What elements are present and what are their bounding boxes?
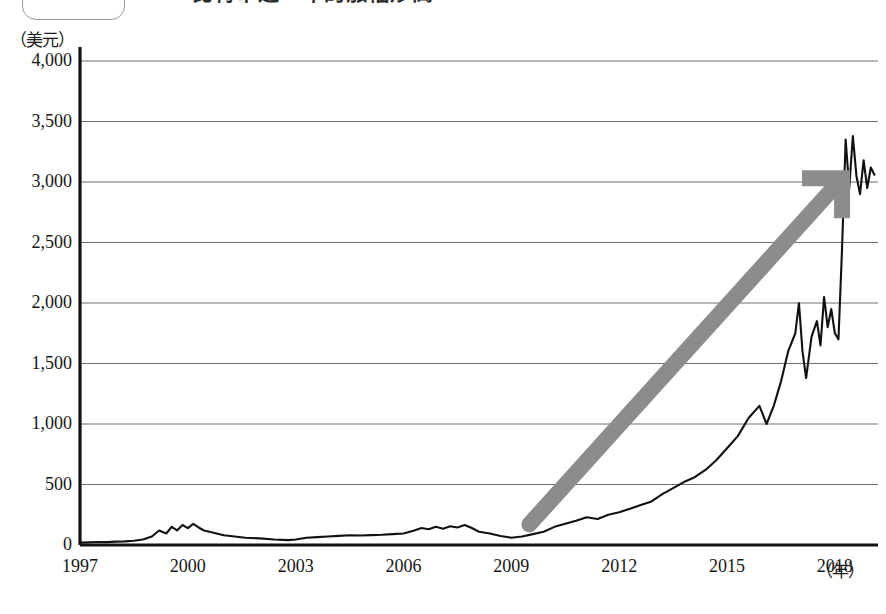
- y-tick-label: 3,000: [6, 172, 72, 190]
- x-tick-label-2000: 2000: [153, 556, 223, 577]
- y-tick-label: 1,500: [6, 354, 72, 372]
- y-tick-label: 0: [6, 535, 72, 553]
- data-series-group: [80, 136, 874, 543]
- chart-canvas: [0, 0, 886, 614]
- y-tick-label: 4,000: [6, 51, 72, 69]
- series-line-index: [80, 136, 874, 543]
- y-tick-label: 2,000: [6, 293, 72, 311]
- x-tick-label-2018: 2018: [800, 556, 870, 577]
- y-tick-label: 2,500: [6, 233, 72, 251]
- y-tick-label: 3,500: [6, 112, 72, 130]
- x-tick-label-2009: 2009: [476, 556, 546, 577]
- x-tick-label-1997: 1997: [45, 556, 115, 577]
- y-tick-label: 500: [6, 475, 72, 493]
- bitcoin-price-line-chart: 05001,0001,5002,0002,5003,0003,5004,000 …: [0, 0, 886, 614]
- x-tick-label-2012: 2012: [584, 556, 654, 577]
- x-tick-label-2003: 2003: [261, 556, 331, 577]
- x-tick-label-2006: 2006: [369, 556, 439, 577]
- x-tick-label-2015: 2015: [692, 556, 762, 577]
- y-tick-label: 1,000: [6, 414, 72, 432]
- annotation-group: [529, 178, 842, 524]
